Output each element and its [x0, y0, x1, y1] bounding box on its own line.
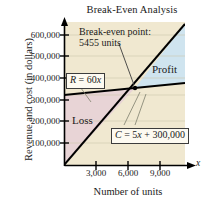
- y-tick-label: 400,000: [16, 73, 60, 83]
- y-tick-label: 300,000: [16, 95, 60, 105]
- x-tick-label: 3,000: [86, 168, 106, 178]
- revenue-equation-var: x: [97, 74, 101, 85]
- x-tick-label-group: 3,000 6,000 9,000: [0, 168, 206, 182]
- break-even-callout-line1: Break-even point:: [79, 26, 151, 37]
- cost-equation-label: C = 5x + 300,000: [111, 128, 189, 144]
- cost-equation-tail: + 300,000: [142, 129, 185, 140]
- profit-region-label: Profit: [152, 63, 177, 75]
- x-axis-variable-label: x: [196, 158, 200, 168]
- y-tick-label: 600,000: [16, 30, 60, 40]
- y-tick-label: 500,000: [16, 51, 60, 61]
- x-tick-label: 9,000: [150, 168, 170, 178]
- y-tick-label: 200,000: [16, 116, 60, 126]
- break-even-callout: Break-even point: 5455 units: [79, 26, 151, 48]
- y-axis-arrowhead: [61, 17, 68, 26]
- x-tick-label: 6,000: [118, 168, 138, 178]
- cost-equation-lhs: C: [115, 129, 122, 140]
- revenue-equation-label: R = 60x: [66, 73, 105, 89]
- y-tick-label: 100,000: [16, 138, 60, 148]
- revenue-equation-rhs: = 60: [76, 74, 97, 85]
- cost-equation-mid: = 5: [122, 129, 138, 140]
- break-even-chart-figure: Break-Even Analysis Revenue and cost (in…: [0, 0, 206, 205]
- loss-region-label: Loss: [72, 114, 93, 126]
- break-even-callout-line2: 5455 units: [79, 37, 151, 48]
